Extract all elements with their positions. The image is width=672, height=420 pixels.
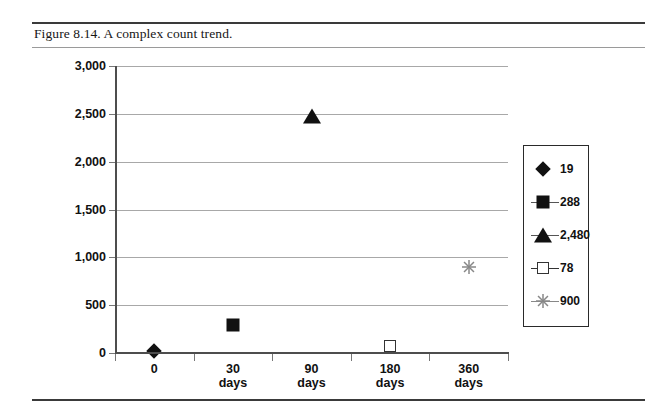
figure-bottom-rule: [32, 399, 645, 401]
x-axis-label-line: 180: [351, 362, 429, 376]
y-axis-tick: [109, 353, 115, 354]
legend-marker-glyph: [534, 228, 552, 243]
gridline: [115, 257, 508, 258]
y-axis-tick: [109, 162, 115, 163]
legend-item[interactable]: 2,480: [524, 220, 590, 250]
legend-marker-glyph: [537, 262, 549, 274]
x-axis-tick: [351, 354, 352, 361]
x-axis-tick: [115, 354, 116, 361]
gridline: [115, 162, 508, 163]
x-axis-label-line: days: [430, 376, 508, 390]
chart-legend: 192882,48078900: [523, 145, 589, 327]
legend-diamond-marker: [528, 154, 558, 184]
legend-open-square-marker: [528, 253, 558, 283]
x-axis-tick: [194, 354, 195, 361]
gridline: [115, 66, 508, 67]
figure-container: Figure 8.14. A complex count trend. 3,00…: [0, 0, 672, 420]
legend-marker-glyph: [535, 161, 551, 177]
legend-item[interactable]: 78: [524, 253, 590, 283]
legend-label: 288: [560, 195, 580, 209]
legend-asterisk-marker: [528, 286, 558, 316]
y-axis-tick-label: 2,000: [42, 156, 106, 169]
x-axis-label-line: days: [351, 376, 429, 390]
y-axis-tick-label: 0: [42, 347, 106, 360]
plot-area: [115, 66, 508, 353]
legend-label: 2,480: [560, 228, 590, 242]
x-axis-label-line: 360: [430, 362, 508, 376]
y-axis-tick-label: 500: [42, 299, 106, 312]
data-point-asterisk-marker[interactable]: [461, 259, 477, 275]
y-axis-tick-label: 3,000: [42, 60, 106, 73]
legend-item[interactable]: 288: [524, 187, 590, 217]
gridline: [115, 305, 508, 306]
legend-item[interactable]: 900: [524, 286, 590, 316]
legend-item[interactable]: 19: [524, 154, 590, 184]
y-axis-tick: [109, 66, 115, 67]
legend-square-marker: [528, 187, 558, 217]
y-axis-tick-label: 1,000: [42, 251, 106, 264]
y-axis-tick: [109, 257, 115, 258]
caption-top-rule: [32, 22, 645, 24]
data-point-triangle-marker[interactable]: [303, 108, 321, 123]
y-axis-tick-label: 1,500: [42, 204, 106, 217]
gridline: [115, 210, 508, 211]
caption-bottom-rule: [32, 47, 645, 48]
x-axis-label-line: 90: [273, 362, 351, 376]
y-axis-tick-label: 2,500: [42, 108, 106, 121]
y-axis-tick: [109, 210, 115, 211]
legend-label: 78: [560, 261, 573, 275]
legend-label: 19: [560, 162, 573, 176]
x-axis-label-line: 0: [115, 362, 193, 376]
y-axis-labels: 3,0002,5002,0001,5001,0005000: [36, 0, 106, 420]
y-axis-tick: [109, 114, 115, 115]
x-axis-tick-label: 30days: [194, 362, 272, 390]
x-axis-label-line: days: [194, 376, 272, 390]
y-axis-line: [115, 66, 117, 354]
data-point-square-marker[interactable]: [226, 319, 239, 332]
x-axis-tick: [429, 354, 430, 361]
legend-marker-glyph: [537, 196, 550, 209]
legend-marker-glyph: [535, 293, 551, 309]
x-axis-label-line: days: [273, 376, 351, 390]
x-axis-tick-label: 0: [115, 362, 193, 376]
x-axis-tick-label: 90days: [273, 362, 351, 390]
y-axis-tick: [109, 305, 115, 306]
x-axis-line: [115, 352, 509, 354]
legend-label: 900: [560, 294, 580, 308]
data-point-open-square-marker[interactable]: [384, 340, 396, 352]
x-axis-tick: [272, 354, 273, 361]
x-axis-label-line: 30: [194, 362, 272, 376]
legend-triangle-marker: [528, 220, 558, 250]
x-axis-tick: [508, 354, 509, 361]
x-axis-tick-label: 180days: [351, 362, 429, 390]
x-axis-tick-label: 360days: [430, 362, 508, 390]
figure-caption: Figure 8.14. A complex count trend.: [34, 26, 594, 46]
